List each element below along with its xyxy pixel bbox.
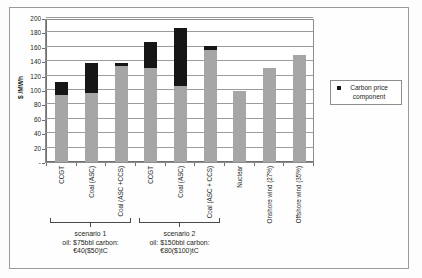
scenario-bracket-stem [90,223,91,227]
x-axis-tick-label: Coal (ASC) [85,166,97,214]
y-axis-tick-label: 40 [17,131,41,137]
x-axis-tick-label-text: Coal (ASC + CCS) [206,166,213,218]
legend-square-marker-icon [337,86,341,90]
y-axis-tick-label: 120 [17,74,41,80]
bar-segment-base-cost [85,93,98,162]
x-axis-tick-label-text: Nuclear [235,166,242,188]
scenario-caption: scenario 2oil: $150bbl carbon:€80($100)t… [125,230,233,256]
y-axis-tick-mark [42,120,45,121]
bar [85,63,98,162]
x-axis-tick-mark [194,163,195,166]
y-axis-tick-mark [42,105,45,106]
bar [115,63,128,162]
bar-segment-carbon-price [85,63,98,93]
bar-segment-base-cost [55,95,68,162]
y-axis-tick-label: - [17,160,41,166]
x-axis-tick-label-text: Coal (ASC +CCS) [117,166,124,217]
x-axis-tick-label: CCGT [55,166,67,214]
y-axis-tick-label: 200 [17,16,41,22]
y-axis-tick-label: 140 [17,59,41,65]
scenario-detail-line-2: €80($100)tC [125,247,233,256]
x-axis-tick-mark [283,163,284,166]
scenario-name: scenario 2 [125,230,233,239]
x-axis-tick-label: Coal (ASC +CCS) [114,166,126,214]
y-axis-tick-label: 60 [17,117,41,123]
y-axis-tick-label: 20 [17,146,41,152]
legend-entry: Carbon price component [334,84,398,101]
gridline [46,17,313,18]
bar [263,68,276,162]
x-axis-tick-mark [105,163,106,166]
y-axis-tick-mark [42,77,45,78]
y-axis-tick-mark [42,19,45,20]
legend: Carbon price component [330,80,402,105]
bar-segment-base-cost [263,68,276,162]
bar-segment-carbon-price [115,63,128,66]
y-axis-tick-label: 100 [17,88,41,94]
bar-segment-base-cost [204,50,217,162]
x-axis-tick-mark [224,163,225,166]
bar-segment-base-cost [233,91,246,162]
scenario-detail-line-1: oil: $150bbl carbon: [125,239,233,248]
x-axis-tick-label: Onshore wind (27%) [263,166,275,214]
bars-group [46,20,313,162]
bar [55,82,68,162]
scenario-bracket-stem [179,223,180,227]
chart-figure: $ /MWh -20406080100120140160180200 CCGTC… [0,0,422,278]
y-axis-tick-mark [42,134,45,135]
bar [233,91,246,162]
scenario-bracket [139,218,219,223]
bar-segment-carbon-price [55,82,68,95]
y-axis-tick-label: 80 [17,102,41,108]
scenario-bracket [50,218,130,223]
x-axis-tick-label-text: CCGT [146,166,153,184]
x-axis-tick-label-text: Coal (ASC) [87,166,94,198]
x-axis-tick-mark [165,163,166,166]
x-axis-tick-mark [135,163,136,166]
plot-area [45,19,314,163]
y-axis-tick-mark [42,33,45,34]
bar-segment-base-cost [115,66,128,162]
x-axis-tick-label: Coal (ASC + CCS) [203,166,215,214]
x-axis-tick-mark [46,163,47,166]
x-axis-tick-mark [76,163,77,166]
y-axis-tick-mark [42,62,45,63]
y-axis-tick-label: 160 [17,45,41,51]
x-axis-tick-label-text: Coal (ASC) [176,166,183,198]
x-axis-tick-label: Offshore wind (35%) [292,166,304,214]
x-axis-tick-label-text: CCGT [57,166,64,184]
y-axis-tick-mark [42,48,45,49]
x-axis-tick-mark [254,163,255,166]
bar [144,42,157,162]
x-axis-tick-label: Nuclear [233,166,245,214]
x-axis-tick-label-text: Offshore wind (35%) [295,166,302,223]
y-axis-tick-mark [42,91,45,92]
x-axis-tick-label: CCGT [144,166,156,214]
bar-segment-base-cost [174,86,187,162]
bar [204,46,217,162]
x-axis-tick-mark [313,163,314,166]
x-axis-tick-label-text: Onshore wind (27%) [265,166,272,223]
bar-segment-carbon-price [144,42,157,68]
bar [174,28,187,162]
legend-label: Carbon price component [343,84,395,101]
bar-segment-base-cost [293,55,306,162]
bar-segment-carbon-price [204,46,217,50]
y-axis-tick-mark [42,163,45,164]
bar [293,55,306,162]
x-axis-tick-label: Coal (ASC) [174,166,186,214]
y-axis-tick-mark [42,149,45,150]
y-axis-tick-label: 180 [17,30,41,36]
bar-segment-carbon-price [174,28,187,86]
bar-segment-base-cost [144,68,157,162]
